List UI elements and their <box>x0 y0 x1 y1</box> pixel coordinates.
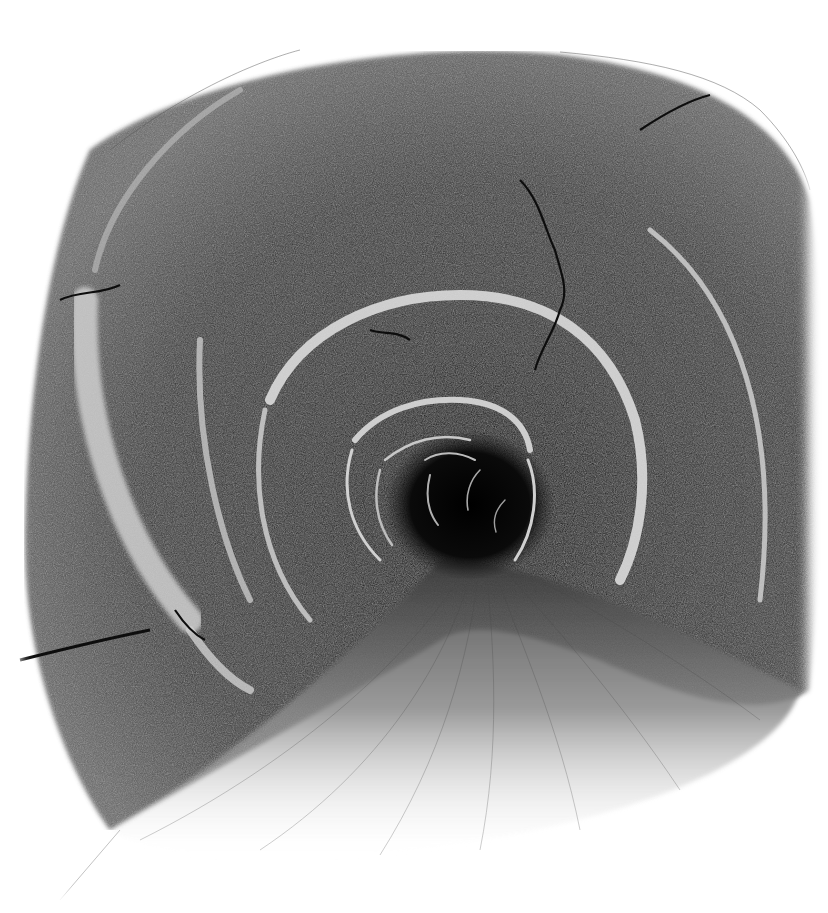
tunnel-svg <box>0 0 828 913</box>
tunnel-drawing <box>0 0 828 913</box>
